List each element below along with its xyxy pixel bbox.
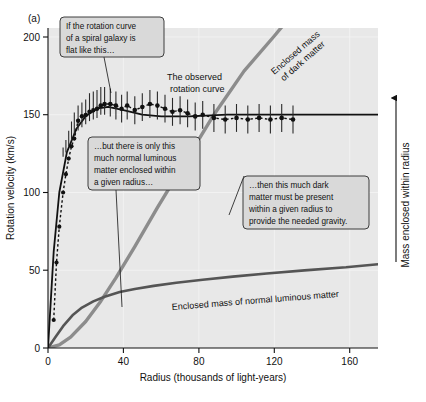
y-tick-label-0: 0 bbox=[34, 343, 40, 354]
callout-2-line-2: much normal luminous bbox=[94, 154, 176, 163]
observed-curve-label-line1: The observed bbox=[167, 72, 222, 82]
x-tick-label-160: 160 bbox=[341, 356, 358, 367]
x-tick-label-120: 120 bbox=[266, 356, 283, 367]
y-axis-title: Rotation velocity (km/s) bbox=[5, 136, 16, 240]
dark-matter-rotation-curve-figure: 0 50 100 150 200 0 40 80 120 160 Radius … bbox=[0, 0, 426, 402]
y-tick-label-50: 50 bbox=[29, 265, 41, 276]
callout-1-line-1: If the rotation curve bbox=[66, 22, 137, 31]
x-tick-label-40: 40 bbox=[118, 356, 130, 367]
callout-1-line-2: of a spiral galaxy is bbox=[66, 34, 136, 43]
y-tick-label-150: 150 bbox=[23, 109, 40, 120]
panel-label: (a) bbox=[28, 13, 40, 24]
callout-3-line-3: within a given radius to bbox=[248, 205, 333, 214]
callout-2-line-3: matter enclosed within bbox=[94, 166, 176, 175]
callout-dark-matter-needed: …then this much dark matter must be pres… bbox=[229, 176, 369, 229]
x-tick-label-0: 0 bbox=[45, 356, 51, 367]
callout-2-line-4: a given radius… bbox=[94, 178, 153, 187]
callout-1-line-3: flat like this… bbox=[66, 46, 115, 55]
x-axis-title: Radius (thousands of light-years) bbox=[140, 372, 287, 383]
x-tick-label-80: 80 bbox=[193, 356, 205, 367]
y-tick-label-100: 100 bbox=[23, 187, 40, 198]
observed-curve-label-line2: rotation curve bbox=[170, 84, 225, 94]
y-right-axis-title: Mass enclosed within radius bbox=[400, 142, 411, 267]
callout-3-line-1: …then this much dark bbox=[249, 181, 330, 190]
callout-2-line-1: …but there is only this bbox=[94, 142, 175, 151]
callout-3-line-4: provide the needed gravity. bbox=[249, 217, 347, 226]
y-tick-label-200: 200 bbox=[23, 32, 40, 43]
callout-3-line-2: matter must be present bbox=[249, 193, 334, 202]
